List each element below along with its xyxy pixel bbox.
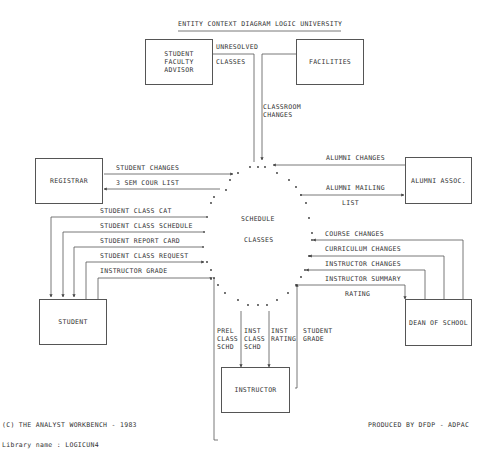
flow-label: STUDENT CHANGES xyxy=(116,164,179,172)
flow-label: CLASSES xyxy=(216,58,246,66)
entity-registrar: REGISTRAR xyxy=(35,158,103,204)
entity-student-faculty-advisor: STUDENT FACULTY ADVISOR xyxy=(145,39,213,85)
flow-label: INST xyxy=(244,327,261,335)
process-label: CLASSES xyxy=(244,236,274,244)
entity-instructor: INSTRUCTOR xyxy=(221,367,290,413)
flow-label: LIST xyxy=(342,199,359,207)
flow-label: CLASS xyxy=(217,335,238,343)
flow-label: PREL xyxy=(217,327,234,335)
entity-label: INSTRUCTOR xyxy=(234,386,276,394)
flow-label: INST xyxy=(271,327,288,335)
flow-label: INSTRUCTOR SUMMARY xyxy=(325,275,401,283)
footer-copyright: (C) THE ANALYST WORKBENCH - 1983 xyxy=(2,421,137,429)
diagram-title: ENTITY CONTEXT DIAGRAM LOGIC UNIVERSITY xyxy=(178,20,342,28)
footer-library: Library name : LOGICUN4 xyxy=(2,441,99,449)
flow-label: CLASS xyxy=(244,335,265,343)
flow-label: 3 SEM COUR LIST xyxy=(116,179,179,187)
flow-label: ALUMNI MAILING xyxy=(326,184,385,192)
flow-label: STUDENT CLASS SCHEDULE xyxy=(100,222,193,230)
entity-facilities: FACILITIES xyxy=(296,39,364,85)
flow-label: STUDENT xyxy=(303,327,333,335)
entity-dean-of-school: DEAN OF SCHOOL xyxy=(405,299,472,346)
flow-label: GRADE xyxy=(303,335,324,343)
entity-alumni-assoc: ALUMNI ASSOC. xyxy=(405,157,472,204)
flow-label: STUDENT CLASS REQUEST xyxy=(100,252,188,260)
entity-label: STUDENT FACULTY ADVISOR xyxy=(164,50,194,74)
flow-label: INSTRUCTOR CHANGES xyxy=(325,260,401,268)
flow-label: STUDENT CLASS CAT xyxy=(100,207,172,215)
entity-label: REGISTRAR xyxy=(50,177,88,185)
flow-label: INSTRUCTOR GRADE xyxy=(100,267,167,275)
flow-label: SCHD xyxy=(217,343,234,351)
entity-label: STUDENT xyxy=(58,318,88,326)
flow-label: CHANGES xyxy=(263,111,293,119)
flow-label: RATING xyxy=(345,290,370,298)
flow-label: RATING xyxy=(271,335,296,343)
footer-produced: PRODUCED BY DFDP - ADPAC xyxy=(368,421,469,429)
entity-student: STUDENT xyxy=(39,299,107,345)
flow-label: CLASSROOM xyxy=(263,103,301,111)
process-label: SCHEDULE xyxy=(241,215,275,223)
flow-label: STUDENT REPORT CARD xyxy=(100,237,180,245)
entity-label: FACILITIES xyxy=(309,58,351,66)
flow-label: ALUMNI CHANGES xyxy=(326,154,385,162)
flow-label: COURSE CHANGES xyxy=(325,230,384,238)
flow-label: SCHD xyxy=(244,343,261,351)
flow-label: UNRESOLVED xyxy=(216,43,258,51)
flow-label: CURRICULUM CHANGES xyxy=(325,245,401,253)
entity-label: DEAN OF SCHOOL xyxy=(409,319,468,327)
entity-label: ALUMNI ASSOC. xyxy=(411,177,466,185)
